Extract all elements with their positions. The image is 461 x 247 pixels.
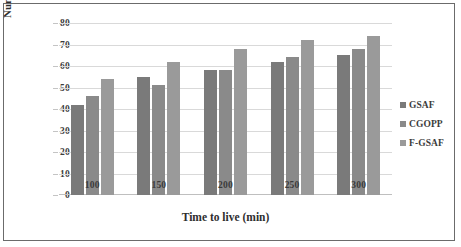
chart-figure: Number of dead nodes 01020304050607080 1… xyxy=(3,3,455,241)
legend-item-cgopp[interactable]: CGOPP xyxy=(400,119,444,129)
y-tick-mark xyxy=(53,88,58,89)
y-axis-title: Number of dead nodes xyxy=(1,0,13,38)
x-tick-label: 150 xyxy=(129,180,189,190)
bar-cgopp-300 xyxy=(352,49,365,195)
bar-group xyxy=(337,23,380,195)
bar-gsaf-150 xyxy=(137,77,150,195)
legend-label: GSAF xyxy=(409,100,435,110)
y-tick-mark xyxy=(53,174,58,175)
chart-legend: GSAFCGOPPF-GSAF xyxy=(400,100,444,157)
bar-gsaf-250 xyxy=(271,62,284,195)
legend-swatch-icon xyxy=(400,121,406,127)
legend-label: CGOPP xyxy=(409,119,443,129)
bar-cgopp-250 xyxy=(286,57,299,195)
legend-item-f-gsaf[interactable]: F-GSAF xyxy=(400,138,444,148)
x-tick-label: 100 xyxy=(62,180,122,190)
legend-item-gsaf[interactable]: GSAF xyxy=(400,100,444,110)
x-tick-label: 200 xyxy=(196,180,256,190)
x-axis-title: Time to live (min) xyxy=(59,211,392,223)
bar-gsaf-300 xyxy=(337,55,350,195)
bar-group xyxy=(271,23,314,195)
bar-cgopp-200 xyxy=(219,70,232,195)
bar-cgopp-150 xyxy=(152,85,165,195)
y-tick-mark xyxy=(53,195,58,196)
y-tick-mark xyxy=(53,23,58,24)
bar-f-gsaf-150 xyxy=(167,62,180,195)
y-tick-mark xyxy=(53,45,58,46)
legend-swatch-icon xyxy=(400,102,406,108)
x-tick-label: 300 xyxy=(329,180,389,190)
bar-gsaf-200 xyxy=(204,70,217,195)
bar-f-gsaf-200 xyxy=(234,49,247,195)
bar-group xyxy=(137,23,180,195)
bar-group xyxy=(204,23,247,195)
legend-swatch-icon xyxy=(400,140,406,146)
bar-f-gsaf-250 xyxy=(301,40,314,195)
y-tick-mark xyxy=(53,66,58,67)
y-tick-mark xyxy=(53,109,58,110)
bar-group xyxy=(71,23,114,195)
legend-label: F-GSAF xyxy=(409,138,444,148)
bar-f-gsaf-300 xyxy=(367,36,380,195)
x-tick-label: 250 xyxy=(262,180,322,190)
bar-f-gsaf-100 xyxy=(101,79,114,195)
plot-area xyxy=(59,23,392,195)
y-tick-mark xyxy=(53,131,58,132)
y-tick-mark xyxy=(53,152,58,153)
